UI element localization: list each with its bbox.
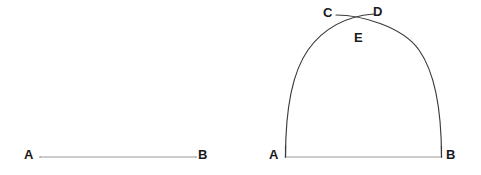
left-endpoint-a-dot bbox=[39, 156, 40, 157]
construction-drawing bbox=[0, 0, 481, 175]
label-right-point-b: B bbox=[446, 148, 455, 161]
label-point-c: C bbox=[323, 6, 332, 19]
diagram-canvas: A B A B C D E bbox=[0, 0, 481, 175]
label-point-e: E bbox=[354, 31, 363, 44]
label-right-point-a: A bbox=[269, 148, 278, 161]
label-left-point-b: B bbox=[198, 148, 207, 161]
right-figure-group bbox=[285, 14, 442, 157]
arc-centered-at-b bbox=[336, 15, 442, 157]
label-point-d: D bbox=[373, 5, 382, 18]
label-left-point-a: A bbox=[24, 148, 33, 161]
left-endpoint-b-dot bbox=[195, 156, 196, 157]
left-figure-group bbox=[39, 156, 196, 157]
